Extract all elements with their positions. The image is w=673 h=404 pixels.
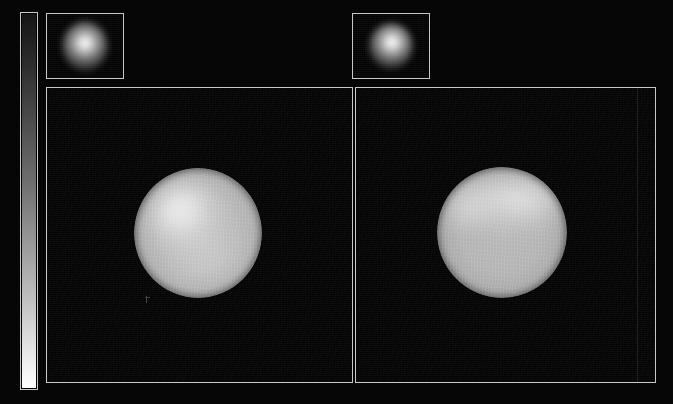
stellar-disc-right	[437, 167, 567, 298]
reconstructed-image-right	[355, 87, 656, 383]
colorbar-gradient	[22, 14, 36, 388]
reconstructed-image-left	[46, 87, 353, 383]
panel-seam-line	[637, 88, 638, 382]
beam-inset-left	[46, 13, 124, 79]
stellar-disc-left	[134, 168, 262, 298]
beam-inset-right	[352, 13, 430, 79]
psf-noise-overlay	[353, 14, 429, 78]
disc-limb-darkening	[437, 167, 567, 298]
figure-canvas	[0, 0, 673, 404]
intensity-colorbar	[20, 12, 38, 390]
psf-noise-overlay	[47, 14, 123, 78]
scale-marker-left	[145, 296, 150, 303]
disc-limb-darkening	[134, 168, 262, 298]
